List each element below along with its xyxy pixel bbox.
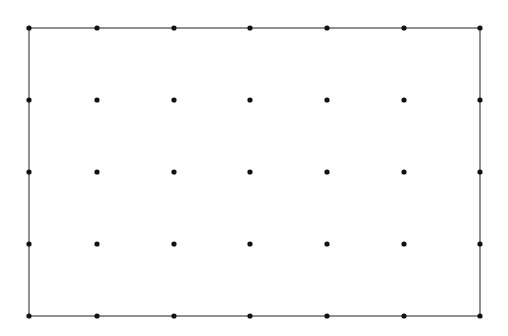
grid-dot xyxy=(94,169,99,174)
grid-dot xyxy=(477,169,482,174)
grid-dot xyxy=(94,313,99,318)
grid-dot xyxy=(171,169,176,174)
grid-dot xyxy=(401,169,406,174)
grid-dot xyxy=(401,25,406,30)
grid-dot xyxy=(401,97,406,102)
grid-dot xyxy=(477,25,482,30)
background xyxy=(0,0,508,336)
grid-dot xyxy=(324,169,329,174)
grid-dot xyxy=(26,97,31,102)
grid-dot xyxy=(477,313,482,318)
grid-dot xyxy=(477,241,482,246)
grid-dot xyxy=(247,241,252,246)
grid-dot xyxy=(94,25,99,30)
grid-dot xyxy=(171,313,176,318)
grid-dot xyxy=(26,313,31,318)
grid-dot xyxy=(94,97,99,102)
grid-dot xyxy=(94,241,99,246)
grid-dot xyxy=(247,313,252,318)
grid-dot xyxy=(401,313,406,318)
grid-dot xyxy=(171,241,176,246)
grid-dot xyxy=(324,241,329,246)
grid-dot xyxy=(324,25,329,30)
grid-dot xyxy=(247,25,252,30)
grid-dot xyxy=(401,241,406,246)
grid-dot xyxy=(477,97,482,102)
grid-dot xyxy=(324,313,329,318)
dot-grid-diagram xyxy=(0,0,508,336)
grid-dot xyxy=(247,169,252,174)
grid-dot xyxy=(171,97,176,102)
grid-dot xyxy=(171,25,176,30)
grid-dot xyxy=(26,241,31,246)
grid-dot xyxy=(26,25,31,30)
grid-dot xyxy=(324,97,329,102)
grid-dot xyxy=(247,97,252,102)
grid-dot xyxy=(26,169,31,174)
